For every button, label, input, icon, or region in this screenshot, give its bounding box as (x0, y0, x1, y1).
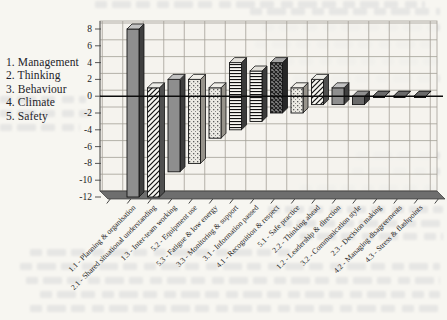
legend-item-management: 1. Management (6, 56, 79, 69)
y-tick-label: -12 (79, 192, 92, 202)
bar (148, 88, 160, 197)
y-tick-label: 0 (87, 91, 92, 101)
bar (271, 63, 283, 113)
y-tick-label: 8 (87, 24, 92, 34)
bar-side-face (262, 66, 267, 121)
x-axis-tick (107, 199, 111, 204)
bar (168, 79, 180, 171)
bar (189, 79, 201, 163)
y-tick-label: -6 (84, 142, 92, 152)
legend-item-thinking: 2. Thinking (6, 69, 79, 82)
bar-side-face (180, 74, 185, 171)
range-column-chart: 86420-2-4-6-8-10-121.1 - Planning & orga… (0, 0, 447, 320)
y-tick-label: -8 (84, 158, 92, 168)
legend-item-behaviour: 3. Behaviour (6, 83, 79, 96)
bar (291, 88, 303, 113)
y-tick-label: 4 (87, 58, 92, 68)
y-tick-label: -4 (84, 125, 92, 135)
bar (127, 29, 139, 197)
y-tick-label: -2 (84, 108, 92, 118)
bar-side-face (139, 24, 144, 197)
bar-side-face (221, 83, 226, 138)
category-label: 2.1 - Shared situational understanding (69, 203, 158, 292)
bar (353, 96, 365, 104)
x-axis-tick (435, 199, 439, 204)
bar-side-face (242, 58, 247, 130)
legend-item-safety: 5. Safety (6, 110, 79, 123)
bar-side-face (201, 74, 206, 163)
y-tick-label: 6 (87, 41, 92, 51)
chart-legend: 1. Management 2. Thinking 3. Behaviour 4… (6, 56, 79, 123)
bar (312, 79, 324, 104)
bar (209, 88, 221, 138)
bar-side-face (283, 58, 288, 113)
y-tick-label: 2 (87, 74, 92, 84)
bar-side-face (160, 83, 165, 197)
legend-item-climate: 4. Climate (6, 96, 79, 109)
y-tick-label: -10 (79, 175, 92, 185)
